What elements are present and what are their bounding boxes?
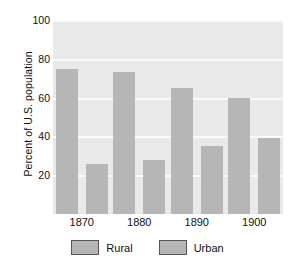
x-tick-label: 1900 [242,216,266,228]
bar-chart-figure: Percent of U.S. population 20406080100 1… [0,0,295,270]
gridline [53,59,283,61]
legend-label-rural: Rural [106,242,132,254]
bar-urban-1900 [258,138,280,214]
x-tick-label: 1870 [70,216,94,228]
x-axis-tick-labels: 1870188018901900 [53,216,283,234]
bar-rural-1900 [228,98,250,214]
legend-swatch-urban [159,240,187,255]
y-tick-label: 40 [24,130,50,142]
gridline [53,20,283,22]
bar-urban-1890 [201,146,223,214]
bar-rural-1890 [171,88,193,214]
x-tick-label: 1880 [127,216,151,228]
y-tick-label: 20 [24,169,50,181]
plot-area [53,20,283,214]
legend-swatch-rural [71,240,99,255]
bar-urban-1880 [143,160,165,214]
x-tick-label: 1890 [185,216,209,228]
bar-urban-1870 [86,164,108,214]
bar-rural-1870 [56,69,78,215]
y-axis-tick-labels: 20406080100 [22,0,50,270]
y-tick-label: 100 [24,14,50,26]
bar-rural-1880 [113,72,135,214]
chart-legend: RuralUrban [0,240,295,255]
legend-label-urban: Urban [194,242,224,254]
legend-item-urban: Urban [159,240,224,255]
legend-item-rural: Rural [71,240,132,255]
y-tick-label: 80 [24,53,50,65]
y-tick-label: 60 [24,92,50,104]
